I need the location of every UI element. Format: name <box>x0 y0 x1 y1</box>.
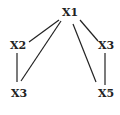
node-x2: X2 <box>10 40 26 52</box>
edge-x1-x5 <box>73 24 96 82</box>
graph-diagram: X1 X2 X3 X3 X5 <box>0 0 120 115</box>
node-x1: X1 <box>62 7 78 19</box>
node-x3-left: X3 <box>11 88 27 100</box>
edge-x1-x3-left <box>21 21 61 81</box>
edge-x1-x3-right <box>80 20 98 41</box>
node-x5: X5 <box>98 88 114 100</box>
node-x3-right: X3 <box>98 40 114 52</box>
